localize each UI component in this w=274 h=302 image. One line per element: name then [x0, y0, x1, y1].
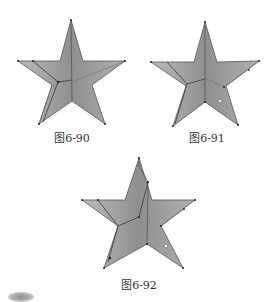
- figure-6-90: [0, 0, 137, 135]
- star-model-icon: [137, 0, 274, 135]
- star-model-icon: [0, 0, 137, 135]
- figure-6-91: [137, 0, 274, 135]
- figure-6-92: [60, 140, 220, 275]
- page-edge-artifact: [8, 292, 34, 302]
- star-model-icon: [60, 140, 220, 275]
- figure-caption-6-92: 图6-92: [121, 276, 157, 292]
